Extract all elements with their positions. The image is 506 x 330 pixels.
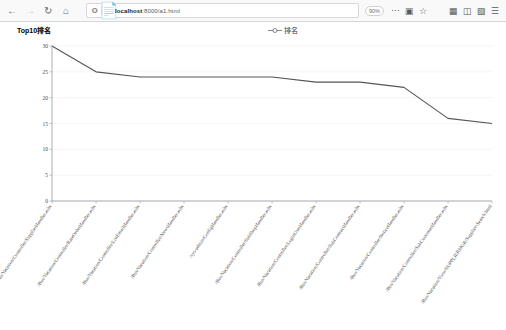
chart-series-line[interactable] [52,46,492,124]
x-axis-tick-label: /sys-admin/ConfigHandler.ashx [188,203,229,258]
y-axis-tick-label: 30 [43,43,49,49]
y-axis-tick-label: 15 [43,121,49,127]
home-icon[interactable]: ⌂ [58,3,74,19]
y-axis-tick-label: 0 [45,198,48,204]
page-content: Top10排名 排名 051015202530/Bus/Vacation/Con… [0,22,506,330]
forward-arrow-icon[interactable]: → [22,3,38,19]
y-axis-tick-label: 5 [45,172,48,178]
x-axis-tick-label: /Bus/Vacation/View/SUPPLIERMGR/Supplier-… [420,203,493,304]
chart-plot-area: 051015202530/Bus/Vacation/Controller/Sup… [0,38,506,330]
hamburger-menu-icon[interactable]: ☰ [488,4,502,18]
sidebar-icon[interactable]: ◫ [460,4,474,18]
legend-label: 排名 [284,25,298,35]
y-axis-tick-label: 20 [43,95,49,101]
url-host: localhost [115,8,142,14]
url-text: localhost:8000/a1.html [115,8,180,14]
x-axis-tick-label: /Bus/Vacation/Controller/NoticeHandler.a… [349,203,406,281]
x-axis-tick-label: /Bus/Vacation/Controller/NewsHandler.ash… [130,203,185,279]
chart-header: Top10排名 排名 [0,22,506,38]
url-path: /a1.html [158,8,180,14]
reader-view-icon[interactable]: ▣ [402,4,416,18]
page-title: Top10排名 [17,25,51,35]
y-axis-tick-label: 10 [43,146,49,152]
y-axis-tick-label: 25 [43,69,49,75]
page-info-icon[interactable]: 📄 [104,6,113,16]
url-bar[interactable]: ⚬ 📄 localhost:8000/a1.html [86,3,359,18]
star-icon[interactable]: ☆ [416,4,430,18]
line-chart: 051015202530/Bus/Vacation/Controller/Sup… [0,38,506,330]
library-icon[interactable]: ▦ [446,4,460,18]
chart-legend[interactable]: 排名 [268,25,298,35]
browser-toolbar: ← → ↻ ⌂ ⚬ 📄 localhost:8000/a1.html 90% ⋯… [0,0,506,22]
back-arrow-icon[interactable]: ← [4,3,20,19]
ellipsis-icon[interactable]: ⋯ [388,4,402,18]
reload-icon[interactable]: ↻ [40,3,56,19]
account-icon[interactable]: ▧ [474,4,488,18]
url-port: :8000 [142,8,158,14]
legend-line-marker [268,27,282,34]
zoom-level-indicator[interactable]: 90% [365,6,384,16]
